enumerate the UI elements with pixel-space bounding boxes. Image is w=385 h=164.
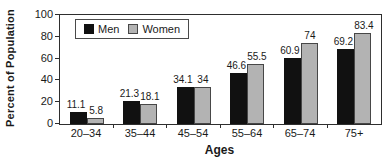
bar-value-label: 83.4 bbox=[354, 20, 373, 31]
bar-value-label: 11.1 bbox=[67, 99, 86, 110]
x-tick-mark bbox=[273, 124, 274, 128]
bar-wrap: 34 bbox=[194, 15, 211, 124]
y-tick-mark bbox=[55, 79, 59, 80]
y-tick-mark bbox=[55, 14, 59, 15]
x-tick-mark bbox=[327, 124, 328, 128]
bar-women-45–54 bbox=[194, 87, 211, 124]
legend-label-men: Men bbox=[98, 23, 119, 35]
y-tick-mark bbox=[55, 58, 59, 59]
bar-value-label: 18.1 bbox=[140, 91, 159, 102]
bar-women-65–74 bbox=[301, 43, 318, 124]
bar-value-label: 5.8 bbox=[89, 105, 103, 116]
bar-men-35–44 bbox=[123, 101, 140, 124]
bar-women-75+ bbox=[354, 33, 371, 124]
chart-legend: Men Women bbox=[75, 19, 189, 39]
legend-item-men: Men bbox=[84, 23, 119, 35]
y-tick-mark bbox=[55, 123, 59, 124]
y-tick-label: 60 bbox=[23, 52, 53, 64]
x-tick-label: 75+ bbox=[327, 127, 381, 139]
bar-value-label: 74 bbox=[304, 30, 315, 41]
bar-wrap: 83.4 bbox=[354, 15, 371, 124]
legend-item-women: Women bbox=[128, 23, 180, 35]
bar-men-45–54 bbox=[177, 87, 194, 124]
bar-women-20–34 bbox=[87, 118, 104, 124]
bar-group: 69.283.4 bbox=[328, 15, 382, 124]
bar-value-label: 60.9 bbox=[280, 45, 299, 56]
legend-label-women: Women bbox=[142, 23, 180, 35]
x-tick-label: 55–64 bbox=[220, 127, 274, 139]
y-tick-mark bbox=[55, 101, 59, 102]
bar-men-75+ bbox=[337, 49, 354, 124]
x-axis-title: Ages bbox=[59, 143, 380, 157]
x-tick-label: 45–54 bbox=[166, 127, 220, 139]
y-tick-label: 100 bbox=[23, 8, 53, 20]
y-axis-title: Percent of Population bbox=[4, 9, 16, 127]
y-tick-label: 0 bbox=[23, 117, 53, 129]
bar-men-20–34 bbox=[70, 112, 87, 124]
bar-men-65–74 bbox=[284, 58, 301, 124]
y-tick-mark bbox=[55, 36, 59, 37]
bar-value-label: 34 bbox=[197, 74, 208, 85]
bar-women-55–64 bbox=[247, 64, 264, 124]
bar-value-label: 21.3 bbox=[120, 88, 139, 99]
bar-wrap: 69.2 bbox=[337, 15, 354, 124]
x-tick-mark bbox=[166, 124, 167, 128]
men-swatch-icon bbox=[84, 24, 94, 34]
women-swatch-icon bbox=[128, 24, 138, 34]
bar-value-label: 69.2 bbox=[334, 36, 353, 47]
bar-wrap: 74 bbox=[301, 15, 318, 124]
x-tick-label: 35–44 bbox=[113, 127, 167, 139]
bar-wrap: 55.5 bbox=[247, 15, 264, 124]
x-tick-mark bbox=[113, 124, 114, 128]
y-tick-label: 80 bbox=[23, 30, 53, 42]
bar-value-label: 34.1 bbox=[173, 74, 192, 85]
bar-value-label: 55.5 bbox=[247, 51, 266, 62]
bar-wrap: 46.6 bbox=[230, 15, 247, 124]
x-tick-mark bbox=[220, 124, 221, 128]
bar-group: 46.655.5 bbox=[221, 15, 275, 124]
bar-chart: Percent of Population 11.15.821.318.134.… bbox=[0, 0, 385, 164]
bar-men-55–64 bbox=[230, 73, 247, 124]
y-tick-label: 20 bbox=[23, 95, 53, 107]
x-tick-label: 65–74 bbox=[273, 127, 327, 139]
y-tick-label: 40 bbox=[23, 73, 53, 85]
bar-value-label: 46.6 bbox=[227, 60, 246, 71]
bar-group: 60.974 bbox=[274, 15, 328, 124]
x-tick-label: 20–34 bbox=[59, 127, 113, 139]
bar-women-35–44 bbox=[140, 104, 157, 124]
bar-wrap: 60.9 bbox=[284, 15, 301, 124]
